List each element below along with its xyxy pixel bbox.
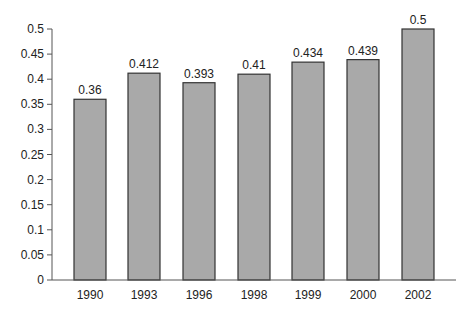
bar-2002 bbox=[402, 29, 434, 280]
y-tick-label: 0.35 bbox=[21, 97, 45, 111]
y-tick-label: 0.4 bbox=[27, 72, 44, 86]
bar-value-label: 0.41 bbox=[242, 58, 266, 72]
bar-chart: 00.050.10.150.20.250.30.350.40.450.5 0.3… bbox=[0, 0, 469, 312]
y-tick-label: 0.15 bbox=[21, 198, 45, 212]
bars: 0.360.4120.3930.410.4340.4390.5 bbox=[74, 13, 434, 280]
bar-value-label: 0.434 bbox=[293, 46, 323, 60]
x-tick-label: 1996 bbox=[186, 288, 213, 302]
bar-1990 bbox=[74, 99, 106, 280]
bar-value-label: 0.412 bbox=[129, 57, 159, 71]
bar-2000 bbox=[347, 60, 379, 280]
x-tick-label: 1999 bbox=[295, 288, 322, 302]
bar-1993 bbox=[128, 73, 160, 280]
y-tick-label: 0 bbox=[37, 273, 44, 287]
x-tick-label: 1990 bbox=[77, 288, 104, 302]
x-tick-label: 1998 bbox=[241, 288, 268, 302]
y-tick-label: 0.25 bbox=[21, 148, 45, 162]
y-tick-label: 0.5 bbox=[27, 22, 44, 36]
bar-1996 bbox=[183, 83, 215, 280]
x-tick-label: 2000 bbox=[350, 288, 377, 302]
bar-value-label: 0.439 bbox=[348, 44, 378, 58]
y-tick-label: 0.3 bbox=[27, 122, 44, 136]
x-tick-label: 2002 bbox=[405, 288, 432, 302]
bar-1998 bbox=[238, 74, 270, 280]
y-tick-label: 0.45 bbox=[21, 47, 45, 61]
bar-1999 bbox=[292, 62, 324, 280]
bar-value-label: 0.393 bbox=[184, 67, 214, 81]
bar-value-label: 0.36 bbox=[78, 83, 102, 97]
bar-value-label: 0.5 bbox=[410, 13, 427, 27]
y-tick-label: 0.05 bbox=[21, 248, 45, 262]
y-axis: 00.050.10.150.20.250.30.350.40.450.5 bbox=[21, 22, 52, 287]
x-tick-label: 1993 bbox=[131, 288, 158, 302]
y-tick-label: 0.2 bbox=[27, 173, 44, 187]
y-tick-label: 0.1 bbox=[27, 223, 44, 237]
x-axis: 1990199319961998199920002002 bbox=[52, 280, 456, 302]
